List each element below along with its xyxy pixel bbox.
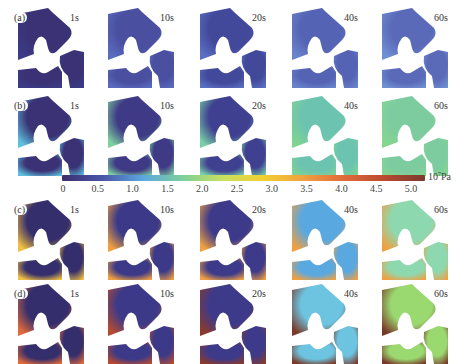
time-label: 10s — [160, 204, 174, 215]
time-label: 10s — [160, 288, 174, 299]
time-label: 40s — [344, 100, 358, 111]
time-label: 20s — [252, 12, 266, 23]
time-label: 60s — [434, 204, 448, 215]
row-label: (a) — [12, 12, 27, 23]
row-label: (d) — [12, 288, 28, 299]
colorbar-tick-label: 5.0 — [405, 183, 418, 194]
colorbar-tick-label: 1.5 — [161, 183, 174, 194]
colorbar-unit-label: 107Pa — [428, 171, 451, 182]
colorbar-tick-label: 4.5 — [370, 183, 383, 194]
time-label: 1s — [70, 204, 79, 215]
time-label: 1s — [70, 100, 79, 111]
colorbar-tick-label: 2.0 — [196, 183, 209, 194]
time-label: 40s — [344, 288, 358, 299]
time-label: 1s — [70, 288, 79, 299]
colorbar-tick-label: 3.5 — [300, 183, 313, 194]
colorbar-tick-label: 4.0 — [335, 183, 348, 194]
time-label: 20s — [252, 204, 266, 215]
time-label: 40s — [344, 12, 358, 23]
time-label: 10s — [160, 100, 174, 111]
colorbar-tick-label: 2.5 — [231, 183, 244, 194]
colorbar-tick-label: 0 — [61, 183, 66, 194]
time-label: 60s — [434, 288, 448, 299]
time-label: 10s — [160, 12, 174, 23]
colorbar-tick-label: 0.5 — [92, 183, 105, 194]
time-label: 20s — [252, 288, 266, 299]
time-label: 1s — [70, 12, 79, 23]
time-label: 40s — [344, 204, 358, 215]
colorbar — [62, 175, 425, 181]
colorbar-tick-label: 1.0 — [126, 183, 139, 194]
time-label: 20s — [252, 100, 266, 111]
colorbar-tick-label: 3.0 — [266, 183, 279, 194]
row-label: (c) — [12, 204, 27, 215]
time-label: 60s — [434, 12, 448, 23]
time-label: 60s — [434, 100, 448, 111]
row-label: (b) — [12, 100, 28, 111]
